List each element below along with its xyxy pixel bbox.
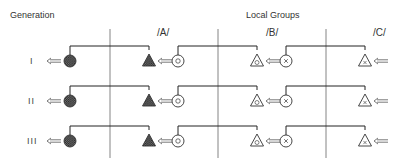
arrow-head-icon — [266, 98, 270, 104]
hatched-triangle-icon — [143, 94, 156, 106]
hatched-triangle-icon — [143, 134, 156, 146]
cross-triangle-icon — [359, 134, 372, 146]
hatched-circle-icon — [64, 95, 76, 107]
descent-bracket — [70, 86, 149, 95]
descent-bracket — [286, 86, 365, 95]
arrow-head-icon — [374, 138, 378, 144]
dot-triangle-icon — [251, 54, 264, 66]
kinship-diagram — [0, 0, 410, 165]
dot-triangle-icon — [251, 134, 264, 146]
hatched-circle-icon — [64, 135, 76, 147]
arrow-head-icon — [158, 98, 162, 104]
cross-triangle-icon — [359, 94, 372, 106]
descent-bracket — [178, 86, 257, 95]
dot-circle-icon — [172, 95, 184, 107]
arrow-head-icon — [47, 138, 51, 144]
descent-bracket — [286, 126, 365, 135]
arrow-head-icon — [158, 138, 162, 144]
hatched-triangle-icon — [143, 54, 156, 66]
arrow-head-icon — [158, 58, 162, 64]
descent-bracket — [286, 46, 365, 55]
arrow-head-icon — [47, 98, 51, 104]
cross-triangle-icon — [359, 54, 372, 66]
hatched-circle-icon — [64, 55, 76, 67]
arrow-head-icon — [374, 58, 378, 64]
dot-circle-icon — [172, 55, 184, 67]
descent-bracket — [178, 46, 257, 55]
dot-triangle-icon — [251, 94, 264, 106]
descent-bracket — [70, 46, 149, 55]
arrow-head-icon — [374, 98, 378, 104]
descent-bracket — [178, 126, 257, 135]
dot-circle-icon — [172, 135, 184, 147]
arrow-head-icon — [266, 58, 270, 64]
arrow-head-icon — [266, 138, 270, 144]
arrow-head-icon — [47, 58, 51, 64]
descent-bracket — [70, 126, 149, 135]
